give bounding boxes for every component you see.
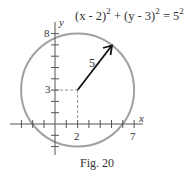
eq-part-3: = 5 bbox=[160, 9, 180, 23]
x-tick-label-7: 7 bbox=[130, 131, 136, 142]
circle-diagram bbox=[0, 0, 196, 173]
eq-exp-3: 2 bbox=[179, 6, 184, 16]
y-tick-label-8: 8 bbox=[44, 28, 50, 39]
x-axis-label: x bbox=[139, 113, 144, 124]
x-tick-label-2: 2 bbox=[74, 131, 80, 142]
y-axis-label: y bbox=[59, 17, 64, 28]
figure-caption: Fig. 20 bbox=[80, 157, 114, 169]
dashed-guides bbox=[55, 90, 78, 124]
eq-part-1: (x - 2) bbox=[75, 9, 106, 23]
radius-label: 5 bbox=[89, 57, 95, 69]
eq-part-2: + (y - 3) bbox=[111, 9, 156, 23]
y-tick-label-3: 3 bbox=[45, 84, 51, 95]
circle-equation: (x - 2)2 + (y - 3)2 = 52 bbox=[75, 6, 184, 24]
